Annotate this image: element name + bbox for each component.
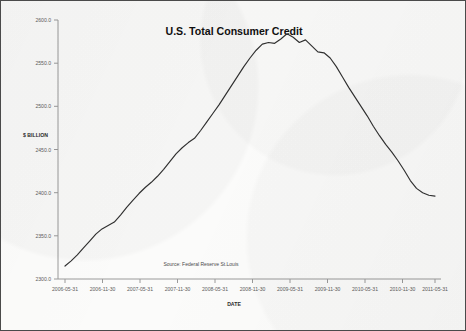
chart-plot-area: U.S. Total Consumer Credit 2600.0 2550.0… <box>1 1 465 330</box>
y-tick-label: 2500.0 <box>35 103 51 109</box>
x-tick-label: 2006-11-30 <box>90 286 116 292</box>
x-tick-label: 2011-05-31 <box>422 286 448 292</box>
y-axis-title: $ BILLION <box>23 132 48 138</box>
x-tick-label: 2007-11-30 <box>165 286 191 292</box>
x-tick-label: 2009-11-30 <box>315 286 341 292</box>
chart-frame: U.S. Total Consumer Credit 2600.0 2550.0… <box>0 0 466 331</box>
y-tick-label: 2300.0 <box>35 276 51 282</box>
source-annotation: Source: Federal Reserve St.Louis <box>163 261 239 267</box>
x-tick-label: 2006-05-31 <box>52 286 78 292</box>
y-tick-label: 2600.0 <box>35 17 51 23</box>
x-tick-label: 2009-05-31 <box>277 286 303 292</box>
x-axis-ticks: 2006-05-31 2006-11-30 2007-05-31 2007-11… <box>52 279 448 292</box>
y-tick-label: 2350.0 <box>35 233 51 239</box>
x-tick-label: 2010-05-31 <box>352 286 378 292</box>
consumer-credit-line-chart: U.S. Total Consumer Credit 2600.0 2550.0… <box>1 1 466 331</box>
y-axis-ticks: 2600.0 2550.0 2500.0 2450.0 2400.0 2350.… <box>35 17 58 282</box>
x-tick-label: 2008-05-31 <box>202 286 228 292</box>
chart-title: U.S. Total Consumer Credit <box>166 25 303 37</box>
y-tick-label: 2450.0 <box>35 147 51 153</box>
x-tick-label: 2010-11-30 <box>390 286 416 292</box>
x-axis-title: DATE <box>227 301 241 307</box>
y-tick-label: 2550.0 <box>35 60 51 66</box>
x-tick-label: 2007-05-31 <box>127 286 153 292</box>
x-tick-label: 2008-11-30 <box>240 286 266 292</box>
y-tick-label: 2400.0 <box>35 190 51 196</box>
